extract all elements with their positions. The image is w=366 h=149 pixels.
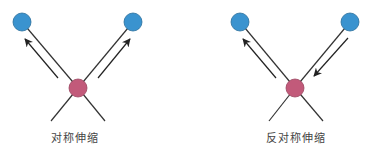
displacement-arrow-icon xyxy=(314,38,348,76)
panel-caption: 对称伸缩 xyxy=(51,129,99,145)
vibration-diagram xyxy=(0,0,366,149)
center-atom xyxy=(69,79,87,97)
outer-atom xyxy=(341,13,359,31)
outer-atom xyxy=(13,13,31,31)
center-atom xyxy=(286,79,304,97)
vibration-panel xyxy=(231,13,359,121)
bond-line xyxy=(295,22,350,88)
bond-line xyxy=(240,22,295,88)
vibration-panel xyxy=(13,13,142,121)
bond-line xyxy=(22,22,78,88)
panel-caption: 反对称伸缩 xyxy=(266,129,326,145)
outer-atom xyxy=(124,13,142,31)
bond-line xyxy=(78,22,133,88)
outer-atom xyxy=(231,13,249,31)
